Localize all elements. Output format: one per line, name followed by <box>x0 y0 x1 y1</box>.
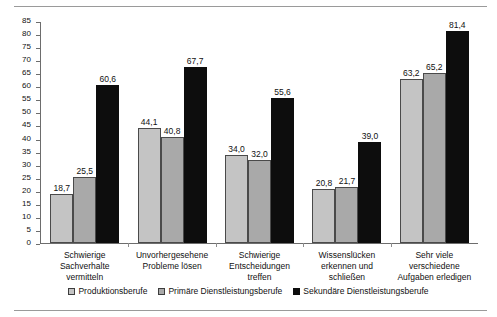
y-axis-tick-mark <box>36 179 40 180</box>
y-axis-tick-label: 60 <box>22 81 31 90</box>
category-label-line: Probleme lösen <box>130 261 213 272</box>
x-axis-category-labels: SchwierigeSachverhaltevermittelnUnvorher… <box>41 250 478 283</box>
category-label-line: schließen <box>305 272 388 283</box>
category-label-line: Schwierige <box>43 250 126 261</box>
bar-value-label: 67,7 <box>187 56 204 66</box>
y-axis-tick-mark <box>36 113 40 114</box>
y-axis-tick-label: 80 <box>22 29 31 38</box>
category-label-line: Aufgaben erledigen <box>393 272 476 283</box>
y-axis-tick-mark <box>36 231 40 232</box>
bar-value-label: 40,8 <box>164 126 181 136</box>
legend-item[interactable]: Primäre Dienstleistungsberufe <box>158 286 282 296</box>
bar-value-label: 81,4 <box>449 20 466 30</box>
legend-swatch-icon <box>293 288 300 295</box>
legend-item[interactable]: Produktionsberufe <box>68 286 147 296</box>
y-axis-tick-label: 15 <box>22 199 31 208</box>
category-separator-tick <box>391 243 392 247</box>
y-axis-tick-mark <box>36 74 40 75</box>
bar[interactable] <box>271 98 294 243</box>
y-axis-tick-label: 30 <box>22 160 31 169</box>
bar-group: 20,821,739,0 <box>303 22 390 243</box>
y-axis-tick-mark <box>36 153 40 154</box>
y-axis-tick-label: 65 <box>22 68 31 77</box>
category-separator-tick <box>303 243 304 247</box>
bar-slot: 65,2 <box>423 22 446 243</box>
bar-value-label: 25,5 <box>76 166 93 176</box>
y-axis-tick-mark <box>36 166 40 167</box>
bar-value-label: 60,6 <box>99 74 116 84</box>
y-axis-tick-label: 10 <box>22 212 31 221</box>
bar[interactable] <box>161 137 184 243</box>
bar[interactable] <box>225 155 248 243</box>
y-axis-tick-mark <box>36 140 40 141</box>
bar[interactable] <box>446 31 469 243</box>
y-axis-tick-label: 85 <box>22 16 31 25</box>
category-separator-tick <box>216 243 217 247</box>
bar-group-bars: 44,140,867,7 <box>128 22 215 243</box>
bar-slot: 55,6 <box>271 22 294 243</box>
category-label-line: Unvorhergesehene <box>130 250 213 261</box>
bar[interactable] <box>50 194 73 243</box>
bar[interactable] <box>423 73 446 243</box>
category-label-line: Entscheidungen <box>218 261 301 272</box>
y-axis-tick-mark <box>36 48 40 49</box>
bar[interactable] <box>335 187 358 243</box>
y-axis-tick-mark <box>36 61 40 62</box>
y-axis-tick-label: 55 <box>22 94 31 103</box>
bar[interactable] <box>248 160 271 243</box>
bar-slot: 39,0 <box>358 22 381 243</box>
y-axis-tick-label: 5 <box>27 225 31 234</box>
bar-value-label: 18,7 <box>53 183 70 193</box>
chart-legend: ProduktionsberufePrimäre Dienstleistungs… <box>0 286 497 296</box>
bar[interactable] <box>400 79 423 243</box>
bar[interactable] <box>96 85 119 243</box>
y-axis-tick-label: 25 <box>22 173 31 182</box>
bar-slot: 20,8 <box>312 22 335 243</box>
bar-slot: 21,7 <box>335 22 358 243</box>
y-axis-tick-label: 75 <box>22 42 31 51</box>
y-axis-tick-mark <box>36 218 40 219</box>
bar[interactable] <box>73 177 96 243</box>
bar-group: 44,140,867,7 <box>128 22 215 243</box>
top-divider-rule <box>14 6 487 7</box>
bar-value-label: 20,8 <box>316 178 333 188</box>
bar-slot: 60,6 <box>96 22 119 243</box>
bar-value-label: 44,1 <box>141 117 158 127</box>
bar-slot: 18,7 <box>50 22 73 243</box>
y-axis-tick-mark <box>36 205 40 206</box>
bar-slot: 32,0 <box>248 22 271 243</box>
bar-slot: 67,7 <box>184 22 207 243</box>
category-label-line: vermitteln <box>43 272 126 283</box>
bar-value-label: 55,6 <box>274 87 291 97</box>
bar-value-label: 32,0 <box>251 149 268 159</box>
bar[interactable] <box>184 67 207 243</box>
bar-value-label: 34,0 <box>228 144 245 154</box>
bar[interactable] <box>312 189 335 243</box>
legend-label: Sekundäre Dienstleistungsberufe <box>303 286 428 296</box>
y-axis-tick-label: 50 <box>22 107 31 116</box>
category-label-line: verschiedene <box>393 261 476 272</box>
legend-item[interactable]: Sekundäre Dienstleistungsberufe <box>293 286 428 296</box>
y-axis-tick-label: 20 <box>22 186 31 195</box>
y-axis-tick-mark <box>36 192 40 193</box>
bar-slot: 25,5 <box>73 22 96 243</box>
bar-group: 34,032,055,6 <box>216 22 303 243</box>
bar-value-label: 65,2 <box>426 62 443 72</box>
y-axis-tick-mark <box>36 244 40 245</box>
bar-value-label: 39,0 <box>362 131 379 141</box>
bar-group-bars: 18,725,560,6 <box>41 22 128 243</box>
bar-group: 18,725,560,6 <box>41 22 128 243</box>
bar[interactable] <box>138 128 161 243</box>
y-axis-tick-label: 45 <box>22 120 31 129</box>
bottom-divider-rule <box>14 310 487 311</box>
x-axis-category-label: SchwierigeEntscheidungentreffen <box>216 250 303 283</box>
x-axis-category-label: Wissenslückenerkennen undschließen <box>303 250 390 283</box>
bar-slot: 34,0 <box>225 22 248 243</box>
category-label-line: Wissenslücken <box>305 250 388 261</box>
bar-group-bars: 63,265,281,4 <box>391 22 478 243</box>
legend-label: Produktionsberufe <box>78 286 147 296</box>
category-label-line: Schwierige <box>218 250 301 261</box>
x-axis-category-label: Sehr vieleverschiedeneAufgaben erledigen <box>391 250 478 283</box>
bar[interactable] <box>358 142 381 243</box>
legend-label: Primäre Dienstleistungsberufe <box>168 286 282 296</box>
